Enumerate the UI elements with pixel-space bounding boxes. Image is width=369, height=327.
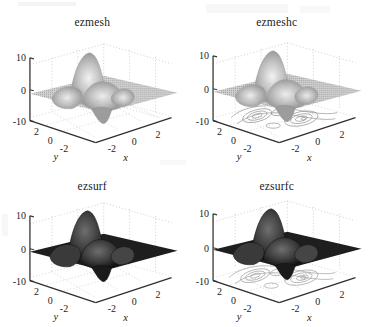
y-tick-label: -2 bbox=[60, 143, 68, 154]
y-tick-labels: 2 0 -2 bbox=[217, 126, 251, 154]
y-tick-label: 2 bbox=[217, 285, 222, 296]
surface-plot-ezmesh: 10 0 -10 2 0 -2 -2 0 2 y x bbox=[0, 0, 185, 164]
x-tick-label: -2 bbox=[108, 143, 116, 154]
z-tick-label: -10 bbox=[195, 116, 208, 127]
z-tick-label: 0 bbox=[204, 242, 209, 253]
x-tick-label: -2 bbox=[291, 143, 299, 154]
surface-plot-ezmeshc: 10 0 -10 2 0 -2 -2 0 2 y x bbox=[185, 0, 369, 164]
x-axis-label: x bbox=[305, 311, 311, 322]
z-tick-label: 0 bbox=[204, 84, 209, 95]
z-tick-label: 10 bbox=[16, 52, 26, 63]
y-tick-label: -2 bbox=[243, 143, 251, 154]
x-tick-label: 0 bbox=[132, 136, 137, 147]
x-tick-label: -2 bbox=[291, 302, 299, 313]
z-tick-label: 0 bbox=[21, 243, 26, 254]
plot-panel-ezmeshc: ezmeshc bbox=[185, 0, 369, 164]
z-tick-labels: 10 0 -10 bbox=[13, 209, 26, 286]
x-tick-label: 2 bbox=[339, 129, 344, 140]
x-axis-label: x bbox=[122, 152, 128, 163]
surface-plot-ezsurfc: 10 0 -10 2 0 -2 -2 0 2 y x bbox=[185, 164, 369, 327]
x-tick-labels: -2 0 2 bbox=[291, 288, 344, 313]
y-tick-label: -2 bbox=[60, 302, 68, 313]
y-tick-label: 2 bbox=[217, 126, 222, 137]
z-tick-label: 0 bbox=[21, 85, 26, 96]
x-tick-labels: -2 0 2 bbox=[108, 288, 161, 313]
y-axis-label: y bbox=[235, 151, 241, 162]
y-tick-label: 0 bbox=[231, 135, 236, 146]
z-axis bbox=[213, 213, 217, 281]
z-tick-labels: 10 0 -10 bbox=[195, 50, 208, 127]
y-tick-label: -2 bbox=[243, 302, 251, 313]
x-tick-label: 2 bbox=[156, 129, 161, 140]
y-axis-label: y bbox=[235, 310, 241, 321]
z-axis bbox=[213, 56, 217, 122]
z-tick-label: 10 bbox=[16, 209, 26, 220]
z-tick-label: -10 bbox=[13, 275, 26, 286]
x-axis-label: x bbox=[305, 152, 311, 163]
y-axis-label: y bbox=[53, 310, 59, 321]
x-tick-labels: -2 0 2 bbox=[108, 129, 161, 154]
z-axis bbox=[30, 215, 34, 281]
x-tick-label: 2 bbox=[339, 288, 344, 299]
x-axis-label: x bbox=[122, 311, 128, 322]
z-tick-labels: 10 0 -10 bbox=[13, 52, 26, 127]
z-tick-label: -10 bbox=[195, 275, 208, 286]
y-tick-label: 0 bbox=[231, 294, 236, 305]
z-axis bbox=[30, 58, 34, 122]
x-tick-labels: -2 0 2 bbox=[291, 129, 344, 154]
plot-panel-ezsurf: ezsurf bbox=[0, 164, 185, 327]
surface-mesh bbox=[213, 51, 361, 122]
plot-panel-ezsurfc: ezsurfc bbox=[185, 164, 369, 327]
figure-grid: ezmesh bbox=[0, 0, 369, 327]
z-tick-label: -10 bbox=[13, 116, 26, 127]
y-tick-label: 2 bbox=[34, 285, 39, 296]
x-tick-label: 2 bbox=[156, 288, 161, 299]
y-tick-label: 0 bbox=[48, 294, 53, 305]
y-tick-labels: 2 0 -2 bbox=[34, 285, 68, 313]
surface-plot-ezsurf: 10 0 -10 2 0 -2 -2 0 2 y x bbox=[0, 164, 185, 327]
plot-panel-ezmesh: ezmesh bbox=[0, 0, 185, 164]
surface-shaded bbox=[213, 208, 361, 279]
y-tick-labels: 2 0 -2 bbox=[217, 285, 251, 313]
x-tick-label: 0 bbox=[132, 295, 137, 306]
z-tick-label: 10 bbox=[199, 207, 209, 218]
x-tick-label: -2 bbox=[108, 302, 116, 313]
z-tick-labels: 10 0 -10 bbox=[195, 207, 208, 286]
x-tick-label: 0 bbox=[315, 295, 320, 306]
x-tick-label: 0 bbox=[315, 136, 320, 147]
y-tick-labels: 2 0 -2 bbox=[34, 126, 68, 154]
y-tick-label: 2 bbox=[34, 126, 39, 137]
y-axis-label: y bbox=[53, 151, 59, 162]
y-tick-label: 0 bbox=[48, 135, 53, 146]
z-tick-label: 10 bbox=[199, 50, 209, 61]
